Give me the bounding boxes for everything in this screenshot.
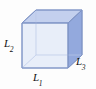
label-L2-subscript: 2 <box>10 45 14 54</box>
label-height-L2: L2 <box>4 38 14 52</box>
label-depth-L3: L3 <box>76 56 86 70</box>
label-L1-subscript: 1 <box>39 79 43 88</box>
cube-illustration <box>0 0 96 89</box>
cube-diagram: L2 L1 L3 <box>0 0 96 89</box>
label-L3-subscript: 3 <box>82 63 86 72</box>
label-width-L1: L1 <box>33 72 43 86</box>
